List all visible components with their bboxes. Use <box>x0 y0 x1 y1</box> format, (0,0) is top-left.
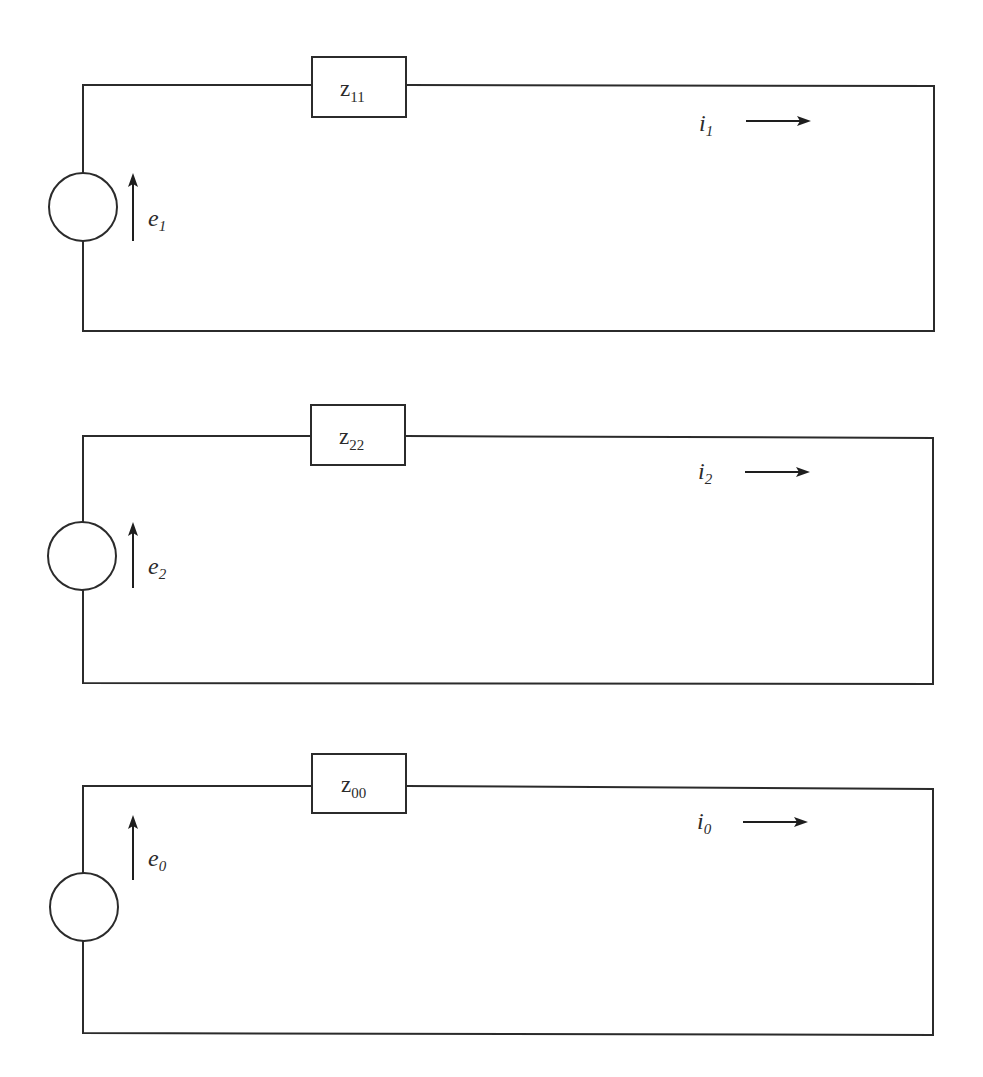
impedance-z22-box <box>311 405 405 465</box>
circuit-2: z22 e2 i2 <box>48 405 933 684</box>
top-wire-left <box>83 85 312 173</box>
emf-label-e2: e2 <box>148 553 167 582</box>
emf-label-e1: e1 <box>148 205 166 234</box>
voltage-source-e1 <box>49 173 117 241</box>
current-label-i2: i2 <box>698 458 713 487</box>
circuit-diagram: z11 e1 i1 z22 e2 i2 <box>0 0 983 1077</box>
current-label-i0: i0 <box>697 808 712 837</box>
current-label-i1: i1 <box>699 110 713 139</box>
emf-label-e0: e0 <box>148 845 167 874</box>
top-wire-left <box>83 786 312 873</box>
top-wire-left <box>83 436 311 522</box>
top-wire-right <box>83 786 933 1035</box>
circuit-0: z00 e0 i0 <box>50 754 933 1035</box>
voltage-source-e2 <box>48 522 116 590</box>
impedance-z00-box <box>312 754 406 813</box>
impedance-z11-box <box>312 57 406 117</box>
voltage-source-e0 <box>50 873 118 941</box>
circuit-1: z11 e1 i1 <box>49 57 934 331</box>
